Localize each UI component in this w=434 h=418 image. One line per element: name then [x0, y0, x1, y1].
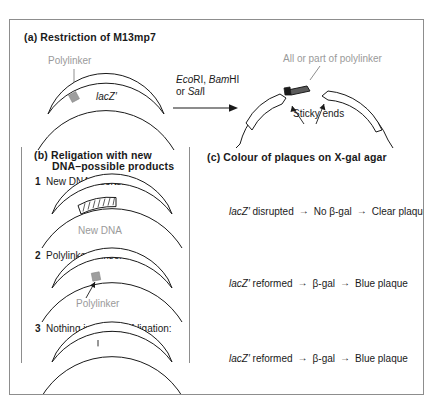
panel-a-lacz-label: lacZ′ — [96, 91, 117, 102]
panel-c-row: lacZ′ reformed → β-gal → Blue plaque — [229, 353, 408, 364]
panel-b-title-line2: DNA–possible products — [52, 160, 174, 172]
panel-b-item1-number: 1 — [35, 176, 41, 188]
enzyme-sal-prefix: Sal — [188, 86, 202, 97]
panel-c-row1-middle: No β-gal — [314, 206, 352, 217]
enzyme-or-word: or — [176, 86, 188, 97]
panel-c-row3-middle: β-gal — [313, 353, 335, 364]
right-arrow-icon: → — [340, 277, 350, 288]
panel-b-item2-annotation: Polylinker — [76, 298, 119, 310]
enzyme-eco-suffix: RI, — [193, 74, 209, 85]
panel-c-row2-middle: β-gal — [313, 278, 335, 289]
panel-b-item2-number: 2 — [35, 250, 41, 262]
panel-a-phage-arc-intact — [36, 78, 176, 148]
panel-c-row: lacZ′ disrupted → No β-gal → Clear plaqu… — [229, 206, 424, 217]
panel-c-row: lacZ′ reformed → β-gal → Blue plaque — [229, 278, 408, 289]
panel-left-divider — [21, 147, 22, 363]
panel-c-row1-result: Clear plaque — [372, 206, 424, 217]
panel-a-enzymes-line2: or SalI — [176, 86, 205, 97]
right-arrow-icon: → — [299, 205, 309, 216]
panel-b-c-divider — [189, 147, 190, 363]
enzyme-sal-suffix: I — [202, 86, 205, 97]
enzyme-bam-prefix: Bam — [209, 74, 230, 85]
right-arrow-icon: → — [357, 205, 367, 216]
enzyme-eco-prefix: Eco — [176, 74, 193, 85]
figure-panel: (a) Restriction of M13mp7 Polylinker lac… — [9, 19, 424, 395]
right-arrow-icon: → — [298, 352, 308, 363]
panel-a-sticky-ends-label: Sticky ends — [293, 108, 344, 120]
panel-c-title: (c) Colour of plaques on X-gal agar — [207, 151, 387, 163]
reaction-arrow-icon — [173, 102, 243, 116]
panel-c-row2-gene: lacZ′ — [229, 278, 250, 289]
panel-c-row3-gene: lacZ′ — [229, 353, 250, 364]
panel-c-row3-state: reformed — [250, 353, 293, 364]
panel-c-row2-state: reformed — [250, 278, 293, 289]
panel-a-enzymes-line1: EcoRI, BamHI — [176, 74, 239, 85]
panel-b-item1-annotation: New DNA — [78, 225, 122, 237]
panel-c-row1-state: disrupted — [250, 206, 294, 217]
panel-c-row3-result: Blue plaque — [355, 353, 408, 364]
right-arrow-icon: → — [340, 352, 350, 363]
panel-c-row1-gene: lacZ′ — [229, 206, 250, 217]
panel-c-row2-result: Blue plaque — [355, 278, 408, 289]
panel-b-item3-arc — [38, 336, 188, 394]
panel-b-item3-number: 3 — [35, 323, 41, 335]
right-arrow-icon: → — [298, 277, 308, 288]
